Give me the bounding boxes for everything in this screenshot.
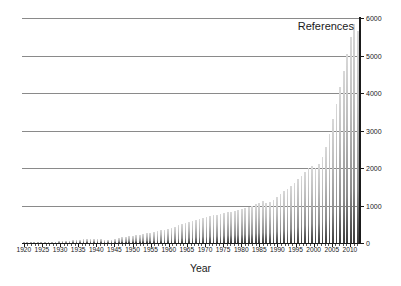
- x-axis-minor-tick: [104, 244, 105, 246]
- x-axis-minor-tick: [267, 244, 268, 246]
- y-axis-tick: [361, 243, 364, 244]
- bar: [301, 176, 303, 244]
- bar: [192, 221, 194, 243]
- y-axis-tick: [361, 93, 364, 94]
- bar: [255, 204, 257, 243]
- x-axis-minor-tick: [357, 244, 358, 246]
- x-axis-minor-tick: [335, 244, 336, 246]
- bar: [350, 37, 352, 243]
- x-axis-minor-tick: [245, 244, 246, 246]
- bar: [308, 168, 310, 243]
- bar: [315, 168, 317, 243]
- x-axis-minor-tick: [118, 244, 119, 246]
- x-axis-tick-label: 1955: [143, 247, 158, 254]
- bar: [251, 206, 253, 243]
- bar: [244, 208, 246, 243]
- x-axis-minor-tick: [136, 244, 137, 246]
- x-axis-tick-label: 1950: [125, 247, 140, 254]
- x-axis-tick-label: 2000: [306, 247, 321, 254]
- bar: [135, 235, 137, 243]
- y-axis-tick: [361, 18, 364, 19]
- bar: [216, 215, 218, 244]
- bar-series: [22, 18, 359, 243]
- x-axis-minor-tick: [227, 244, 228, 246]
- bar: [178, 225, 180, 243]
- x-axis-minor-tick: [354, 244, 355, 246]
- bar: [276, 197, 278, 243]
- x-axis-minor-tick: [64, 244, 65, 246]
- bar: [202, 218, 204, 244]
- x-axis-tick-label: 1940: [89, 247, 104, 254]
- bar: [157, 231, 159, 243]
- bar: [346, 54, 348, 243]
- x-axis-tick-label: 1975: [216, 247, 231, 254]
- bar: [223, 213, 225, 243]
- x-axis-minor-tick: [317, 244, 318, 246]
- x-axis-tick-label: 1985: [252, 247, 267, 254]
- bar: [318, 164, 320, 243]
- x-axis-minor-tick: [49, 244, 50, 246]
- y-axis-tick-label: 3000: [366, 127, 382, 134]
- x-axis-title: Year: [0, 262, 401, 274]
- bar: [269, 202, 271, 243]
- x-axis-tick-label: 1935: [71, 247, 86, 254]
- x-axis-minor-tick: [27, 244, 28, 246]
- bar: [146, 233, 148, 243]
- x-axis-minor-tick: [285, 244, 286, 246]
- x-axis-minor-tick: [191, 244, 192, 246]
- bar: [149, 233, 151, 243]
- bar: [258, 203, 260, 244]
- x-axis-minor-tick: [281, 244, 282, 246]
- bar: [139, 235, 141, 243]
- x-axis-minor-tick: [321, 244, 322, 246]
- bar: [153, 232, 155, 243]
- x-axis-tick-label: 1960: [161, 247, 176, 254]
- x-axis-tick-label: 1945: [107, 247, 122, 254]
- bar: [209, 216, 211, 243]
- x-axis-minor-tick: [122, 244, 123, 246]
- x-axis-tick-label: 1990: [270, 247, 285, 254]
- bar: [287, 189, 289, 243]
- bar: [237, 210, 239, 243]
- x-axis-minor-tick: [339, 244, 340, 246]
- x-axis-minor-tick: [172, 244, 173, 246]
- bar: [325, 147, 327, 243]
- x-axis-minor-tick: [194, 244, 195, 246]
- bar: [241, 209, 243, 243]
- x-axis-minor-tick: [176, 244, 177, 246]
- references-per-year-bar-chart: 0100020003000400050006000 19201925193019…: [0, 0, 401, 286]
- bar: [174, 227, 176, 244]
- bar: [128, 236, 130, 243]
- bar: [160, 230, 162, 243]
- y-axis-tick: [361, 56, 364, 57]
- bar: [336, 104, 338, 243]
- bar: [304, 172, 306, 243]
- bar: [265, 203, 267, 243]
- x-axis-minor-tick: [158, 244, 159, 246]
- x-axis-minor-tick: [82, 244, 83, 246]
- bar: [227, 212, 229, 243]
- y-axis-tick-label: 1000: [366, 202, 382, 209]
- x-axis-tick-label: 1970: [198, 247, 213, 254]
- series-label-references: References: [298, 20, 354, 32]
- bar: [343, 71, 345, 244]
- x-axis-tick-label: 1930: [53, 247, 68, 254]
- x-axis-tick-label: 1995: [288, 247, 303, 254]
- bar: [167, 229, 169, 243]
- bar: [164, 230, 166, 244]
- y-axis-tick-label: 4000: [366, 90, 382, 97]
- y-axis-tick: [361, 206, 364, 207]
- x-axis-minor-tick: [212, 244, 213, 246]
- bar: [171, 228, 173, 243]
- bar: [283, 191, 285, 243]
- x-axis-minor-tick: [209, 244, 210, 246]
- bar: [339, 87, 341, 243]
- bar: [185, 223, 187, 243]
- x-axis-minor-tick: [46, 244, 47, 246]
- x-axis-minor-tick: [31, 244, 32, 246]
- y-axis-tick: [361, 131, 364, 132]
- x-axis-tick-label: 1925: [35, 247, 50, 254]
- x-axis-tick-label: 1920: [16, 247, 31, 254]
- plot-area: [22, 18, 359, 243]
- bar: [297, 179, 299, 243]
